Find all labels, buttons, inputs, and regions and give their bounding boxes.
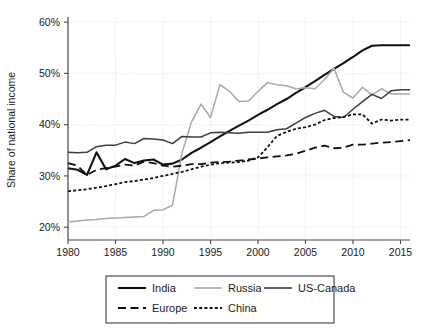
legend-label-china: China bbox=[228, 302, 258, 314]
y-tick-label: 30% bbox=[39, 170, 60, 182]
y-tick-label: 40% bbox=[39, 118, 60, 130]
y-tick-label: 60% bbox=[39, 16, 60, 28]
x-tick-label: 2000 bbox=[246, 246, 270, 258]
x-tick-label: 1980 bbox=[56, 246, 80, 258]
x-tick-label: 2015 bbox=[389, 246, 413, 258]
chart-legend[interactable]: IndiaRussiaUS-CanadaEuropeChina bbox=[106, 276, 356, 323]
x-tick-label: 2010 bbox=[341, 246, 365, 258]
x-tick-label: 2005 bbox=[294, 246, 318, 258]
y-axis-title: Share of national income bbox=[5, 72, 17, 188]
y-tick-label: 20% bbox=[39, 221, 60, 233]
line-chart: 20%30%40%50%60% 198019851990199520002005… bbox=[0, 0, 424, 329]
y-tick-label: 50% bbox=[39, 67, 60, 79]
legend-label-us-canada: US-Canada bbox=[298, 282, 356, 294]
chart-container: 20%30%40%50%60% 198019851990199520002005… bbox=[0, 0, 424, 329]
x-tick-label: 1995 bbox=[199, 246, 223, 258]
x-tick-label: 1985 bbox=[104, 246, 128, 258]
legend-label-russia: Russia bbox=[228, 282, 263, 294]
x-tick-label: 1990 bbox=[151, 246, 175, 258]
legend-label-europe: Europe bbox=[152, 302, 187, 314]
legend-label-india: India bbox=[152, 282, 177, 294]
